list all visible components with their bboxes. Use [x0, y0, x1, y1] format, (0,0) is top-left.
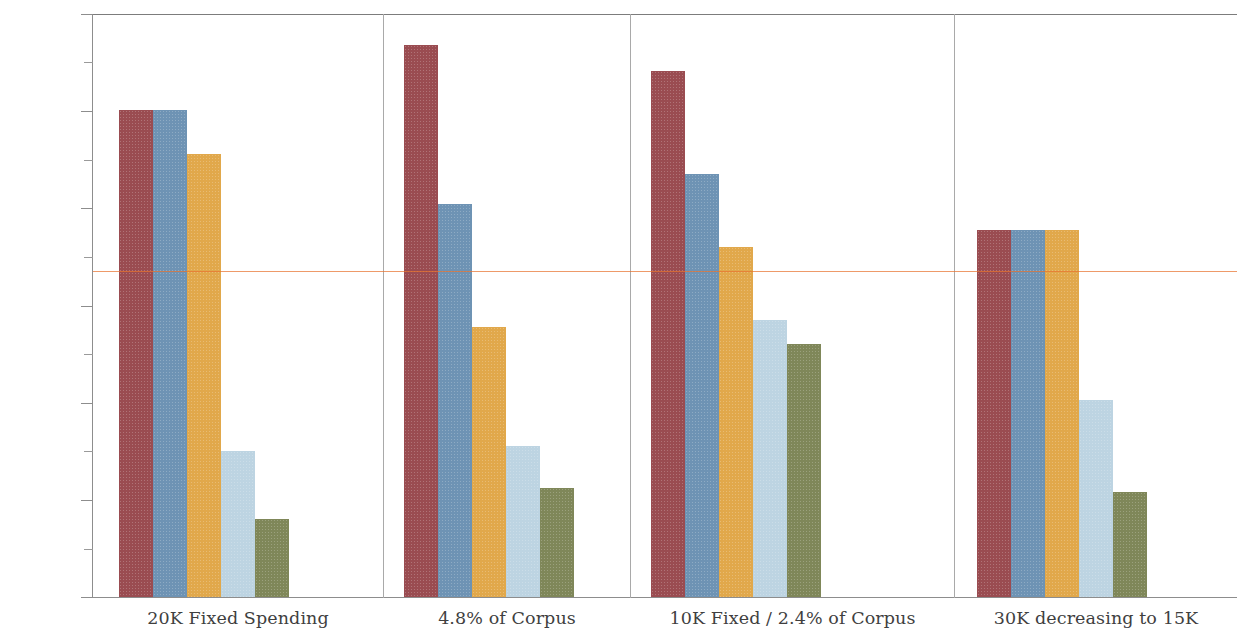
y-major-tick: [81, 597, 92, 598]
bar: [153, 110, 187, 597]
y-minor-tick: [84, 257, 93, 258]
bar-chart: $24,000 $20,000 $16,000 $12,000 $8,000 $…: [0, 0, 1237, 637]
bar: [506, 446, 540, 597]
category-label-2: 10K Fixed / 2.4% of Corpus: [631, 608, 954, 628]
group-separator: [383, 14, 384, 598]
category-label-3: 30K decreasing to 15K: [955, 608, 1237, 628]
y-minor-tick: [84, 62, 93, 63]
bar: [404, 45, 438, 597]
bar: [1113, 492, 1147, 597]
bar: [221, 451, 255, 597]
category-label-1: 4.8% of Corpus: [384, 608, 630, 628]
y-minor-tick: [84, 354, 93, 355]
group-separator: [954, 14, 955, 598]
y-minor-tick: [84, 160, 93, 161]
y-major-tick: [81, 306, 92, 307]
bar: [187, 154, 221, 597]
bar: [540, 488, 574, 598]
bar: [255, 519, 289, 597]
y-major-tick: [81, 500, 92, 501]
plot-area: [93, 14, 1237, 598]
bar: [1011, 230, 1045, 597]
bar: [472, 327, 506, 597]
y-minor-tick: [84, 549, 93, 550]
bar: [1079, 400, 1113, 597]
y-major-tick: [81, 111, 92, 112]
bar: [119, 110, 153, 597]
bar: [685, 174, 719, 597]
y-major-tick: [81, 14, 92, 15]
x-axis-labels: 20K Fixed Spending 4.8% of Corpus 10K Fi…: [93, 602, 1237, 637]
x-axis-line: [93, 597, 1237, 598]
plot-top-border: [93, 14, 1237, 15]
y-axis: $24,000 $20,000 $16,000 $12,000 $8,000 $…: [0, 0, 93, 637]
bar: [651, 71, 685, 597]
bar: [438, 204, 472, 597]
bar: [787, 344, 821, 597]
y-major-tick: [81, 208, 92, 209]
y-major-tick: [81, 403, 92, 404]
bar: [753, 320, 787, 597]
reference-line: [93, 271, 1237, 272]
bar: [719, 247, 753, 597]
category-label-0: 20K Fixed Spending: [93, 608, 383, 628]
bar: [977, 230, 1011, 597]
y-minor-tick: [84, 451, 93, 452]
group-separator: [630, 14, 631, 598]
bar: [1045, 230, 1079, 597]
